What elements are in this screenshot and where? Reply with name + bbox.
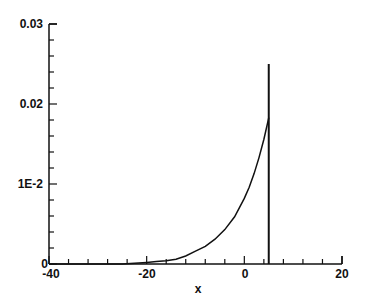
x-ticks [49, 256, 342, 264]
y-tick-label: 0.03 [20, 17, 44, 31]
y-tick-label: 0.02 [20, 97, 44, 111]
chart: 0.03 0.02 1E-2 0 -40 -20 0 20 x [0, 0, 365, 301]
x-tick-label: -40 [42, 267, 60, 281]
x-tick-label: 0 [242, 267, 249, 281]
y-ticks [49, 24, 57, 264]
y-axis [49, 24, 57, 264]
data-curve [49, 118, 269, 264]
y-tick-label: 1E-2 [18, 177, 44, 191]
x-axis [49, 256, 342, 264]
x-axis-title: x [195, 282, 202, 296]
x-tick-label: -20 [138, 267, 156, 281]
x-tick-label: 20 [335, 267, 349, 281]
